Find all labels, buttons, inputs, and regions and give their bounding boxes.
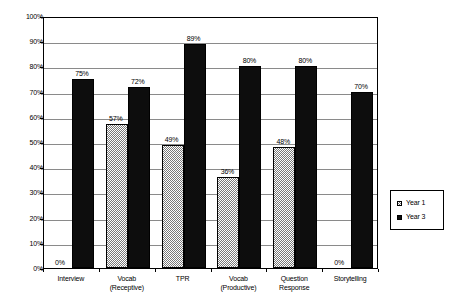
y-axis-tick-label: 80%	[9, 63, 43, 71]
y-axis-tick-label: 20%	[9, 215, 43, 223]
bar-year-3	[184, 44, 206, 268]
bar-year-1	[217, 177, 239, 268]
legend-item-year-3[interactable]: Year 3	[391, 210, 443, 224]
x-axis-category-label-line: (Receptive)	[99, 283, 155, 292]
x-axis-category-label: QuestionResponse	[266, 274, 322, 292]
x-axis-category-label: TPR	[155, 274, 211, 283]
x-axis-category-label-line: Vocab	[99, 274, 155, 283]
x-axis-tick-mark	[43, 269, 44, 272]
x-axis-ticks	[43, 269, 378, 273]
bar-year-1	[162, 145, 184, 268]
y-axis-tick-label: 50%	[9, 139, 43, 147]
x-axis-category-label: Storytelling	[322, 274, 378, 283]
x-axis-category-label-line: Storytelling	[322, 274, 378, 283]
x-axis-category-label-line: Response	[266, 283, 322, 292]
y-axis-tick-label: 100%	[9, 13, 43, 21]
x-axis-category-label: Interview	[43, 274, 99, 283]
x-axis-category-label: Vocab(Productive)	[211, 274, 267, 292]
x-axis-tick-mark	[211, 269, 212, 272]
x-axis-tick-mark	[155, 269, 156, 272]
bar-year-1	[106, 124, 128, 268]
x-axis-category-label: Vocab(Receptive)	[99, 274, 155, 292]
y-axis-tick-label: 0%	[9, 265, 43, 273]
gridline	[44, 43, 377, 44]
x-axis-tick-mark	[378, 269, 379, 272]
x-axis-tick-mark	[266, 269, 267, 272]
plot-area	[43, 17, 378, 269]
gridline	[44, 144, 377, 145]
bar-year-3	[295, 66, 317, 268]
y-axis-tick-label: 60%	[9, 114, 43, 122]
x-axis-category-label-line: Vocab	[211, 274, 267, 283]
y-axis-tick-label: 10%	[9, 240, 43, 248]
x-axis-tick-mark	[322, 269, 323, 272]
legend-swatch-icon	[397, 215, 402, 220]
gridline	[44, 245, 377, 246]
gridline	[44, 169, 377, 170]
gridline	[44, 119, 377, 120]
x-axis-category-label-line: TPR	[155, 274, 211, 283]
gridline	[44, 194, 377, 195]
x-axis-category-label-line: Question	[266, 274, 322, 283]
legend-swatch-icon	[397, 201, 402, 206]
y-axis: 0%10%20%30%40%50%60%70%80%90%100%	[0, 17, 43, 269]
bar-year-3	[351, 92, 373, 268]
x-axis-labels: InterviewVocab(Receptive)TPRVocab(Produc…	[43, 274, 378, 304]
y-axis-tick-label: 90%	[9, 38, 43, 46]
y-axis-tick-label: 40%	[9, 164, 43, 172]
chart-legend: Year 1Year 3	[390, 190, 444, 230]
x-axis-category-label-line: (Productive)	[211, 283, 267, 292]
bar-year-3	[239, 66, 261, 268]
bar-year-1	[273, 147, 295, 268]
y-axis-tick-label: 70%	[9, 89, 43, 97]
legend-item-year-1[interactable]: Year 1	[391, 196, 443, 210]
y-axis-tick-label: 30%	[9, 189, 43, 197]
x-axis-tick-mark	[99, 269, 100, 272]
gridline	[44, 68, 377, 69]
bar-chart: 0%10%20%30%40%50%60%70%80%90%100% Interv…	[0, 0, 449, 305]
x-axis-category-label-line: Interview	[43, 274, 99, 283]
legend-label: Year 3	[406, 213, 425, 221]
gridline	[44, 220, 377, 221]
bar-year-3	[128, 87, 150, 268]
legend-label: Year 1	[406, 199, 425, 207]
gridline	[44, 94, 377, 95]
bar-year-3	[72, 79, 94, 268]
